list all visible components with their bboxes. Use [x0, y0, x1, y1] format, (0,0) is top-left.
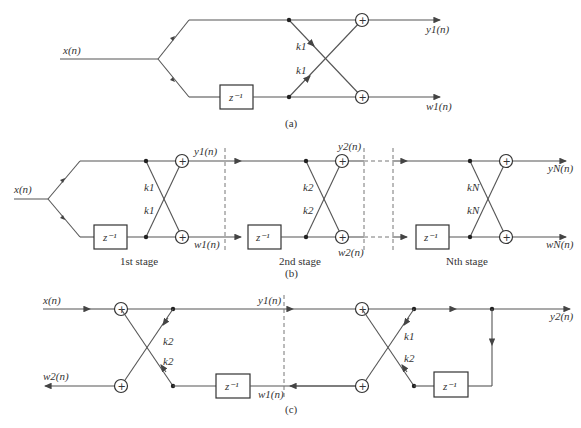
label-k2: k2	[163, 355, 174, 367]
label-w2: w2(n)	[43, 370, 69, 383]
svg-text:+: +	[118, 304, 126, 315]
label-y1: y1(n)	[193, 145, 218, 158]
label-kN: kN	[467, 204, 480, 216]
caption-a: (a)	[285, 117, 298, 130]
label-w1: w1(n)	[426, 100, 452, 113]
figure-c: + + x(n) w2(n) k2 k2 z⁻¹ y1(n) w1(n) + +	[42, 294, 574, 416]
label-k1: k1	[144, 181, 154, 193]
svg-text:+: +	[118, 381, 126, 392]
svg-text:+: +	[359, 15, 367, 26]
label-w1: w1(n)	[194, 238, 220, 251]
stage-1-label: 1st stage	[120, 255, 158, 267]
label-x: x(n)	[42, 294, 61, 307]
label-k2: k2	[303, 204, 314, 216]
label-y1: y1(n)	[257, 294, 282, 307]
svg-text:+: +	[179, 232, 187, 243]
svg-text:+: +	[359, 304, 367, 315]
label-k1-top: k1	[296, 40, 306, 52]
label-k1: k1	[404, 330, 414, 342]
label-x: x(n)	[13, 183, 32, 196]
label-y1: y1(n)	[425, 23, 450, 36]
label-k2: k2	[163, 335, 174, 347]
label-delay: z⁻¹	[255, 231, 270, 243]
label-y2: y2(n)	[549, 310, 574, 323]
stage-N-label: Nth stage	[446, 255, 488, 267]
label-w2: w2(n)	[338, 246, 364, 259]
label-y2: y2(n)	[337, 140, 362, 153]
svg-text:+: +	[503, 232, 511, 243]
label-k1-bottom: k1	[296, 64, 306, 76]
label-wN: wN(n)	[546, 238, 574, 251]
svg-text:+: +	[503, 156, 511, 167]
figure-a: + + x(n) k1 k1 z⁻¹ y1(n) w1(n) (a)	[60, 14, 452, 131]
label-delay: z⁻¹	[442, 380, 457, 392]
caption-c: (c)	[285, 403, 298, 416]
label-k2: k2	[303, 181, 314, 193]
figure-b: x(n) + + k1 k1 z⁻¹ y1(n) w1(n) 1st stage…	[13, 140, 574, 280]
caption-b: (b)	[285, 267, 298, 280]
label-delay: z⁻¹	[228, 91, 243, 103]
label-delay: z⁻¹	[423, 231, 438, 243]
label-yN: yN(n)	[547, 162, 573, 175]
label-delay: z⁻¹	[224, 380, 239, 392]
label-w1: w1(n)	[258, 388, 284, 401]
lattice-filter-diagram: + + x(n) k1 k1 z⁻¹ y1(n) w1(n) (a) x(n) …	[0, 0, 581, 428]
label-delay: z⁻¹	[102, 231, 117, 243]
label-kN: kN	[467, 181, 480, 193]
label-k2: k2	[404, 352, 415, 364]
stage-2-label: 2nd stage	[279, 255, 321, 267]
svg-text:+: +	[339, 232, 347, 243]
label-k1: k1	[144, 204, 154, 216]
label-x: x(n)	[62, 44, 81, 57]
svg-text:+: +	[359, 381, 367, 392]
svg-text:+: +	[339, 156, 347, 167]
svg-text:+: +	[179, 156, 187, 167]
svg-text:+: +	[359, 92, 367, 103]
